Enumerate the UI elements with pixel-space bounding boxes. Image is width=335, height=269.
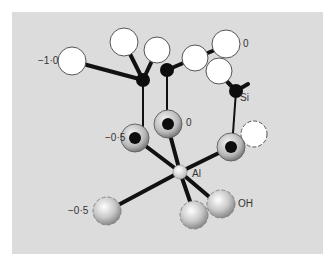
charge-label-top-left: −1·0 (38, 55, 59, 66)
charge-label-mid: 0 (186, 117, 192, 128)
oxygen-atom (212, 30, 240, 58)
oxygen-atom (58, 47, 86, 75)
oxygen-atom (206, 58, 232, 84)
charge-label-bottom-left: −0·5 (68, 205, 89, 216)
hydroxyl-atom (93, 197, 121, 225)
silicon-atom (136, 73, 150, 87)
oxygen-atom (144, 37, 170, 63)
hydroxyl-atom (207, 190, 235, 218)
hydroxyl-atoms (93, 190, 235, 229)
si-label: Si (240, 92, 249, 103)
oxygen-atom (110, 28, 138, 56)
oxygen-atom (182, 45, 208, 71)
hydroxyl-atom (180, 201, 208, 229)
silicon-atom (160, 63, 174, 77)
aluminium-atom (173, 165, 187, 179)
bridging-oxygen-atoms (121, 110, 245, 161)
charge-label-mid-left: −0·5 (105, 132, 126, 143)
charge-label-top-right: 0 (243, 38, 249, 49)
oh-label: OH (238, 198, 253, 209)
molecular-structure-diagram: −1·0 0 Si −0·5 0 Al −0·5 OH (0, 0, 335, 269)
al-label: Al (192, 168, 201, 179)
